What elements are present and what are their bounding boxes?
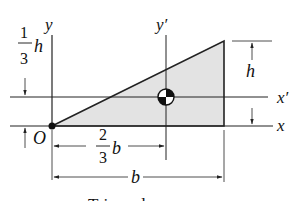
y-axis-label: y: [43, 15, 53, 34]
two-thirds-denominator: 3: [99, 149, 107, 166]
figure-caption: Triangular area: [88, 195, 192, 201]
origin-point: [49, 123, 56, 130]
origin-label: O: [33, 128, 46, 148]
two-thirds-b-var: b: [112, 138, 121, 158]
x-prime-axis-label: x′: [276, 88, 289, 107]
y-prime-axis-label: y′: [154, 15, 168, 34]
two-thirds-numerator: 2: [99, 126, 107, 143]
one-third-h-var: h: [34, 36, 43, 56]
triangle-centroid-diagram: y y′ x x′ O h 1 3 h 2 3 b b Triangular a…: [0, 0, 295, 201]
one-third-denominator: 3: [20, 50, 28, 67]
b-label: b: [131, 167, 140, 187]
x-axis-label: x: [276, 116, 285, 135]
centroid-icon: [158, 89, 174, 105]
triangle-area: [52, 41, 224, 126]
one-third-numerator: 1: [20, 24, 28, 41]
h-label: h: [246, 61, 255, 81]
